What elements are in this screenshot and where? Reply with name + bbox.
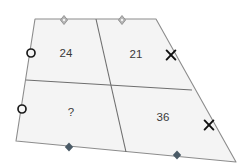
circle-open-icon-lower-left <box>18 105 26 113</box>
region-label-top-left: 24 <box>60 47 73 59</box>
region-label-bottom-right: 36 <box>157 111 170 123</box>
geometry-figure-canvas: 24 21 ? 36 <box>0 0 240 167</box>
quadrilateral-diagram: 24 21 ? 36 <box>0 0 240 167</box>
region-label-top-right: 21 <box>130 48 143 60</box>
quadrilateral-outline <box>16 19 236 162</box>
region-label-bottom-left: ? <box>68 106 74 118</box>
circle-open-icon-upper-left <box>27 49 35 57</box>
